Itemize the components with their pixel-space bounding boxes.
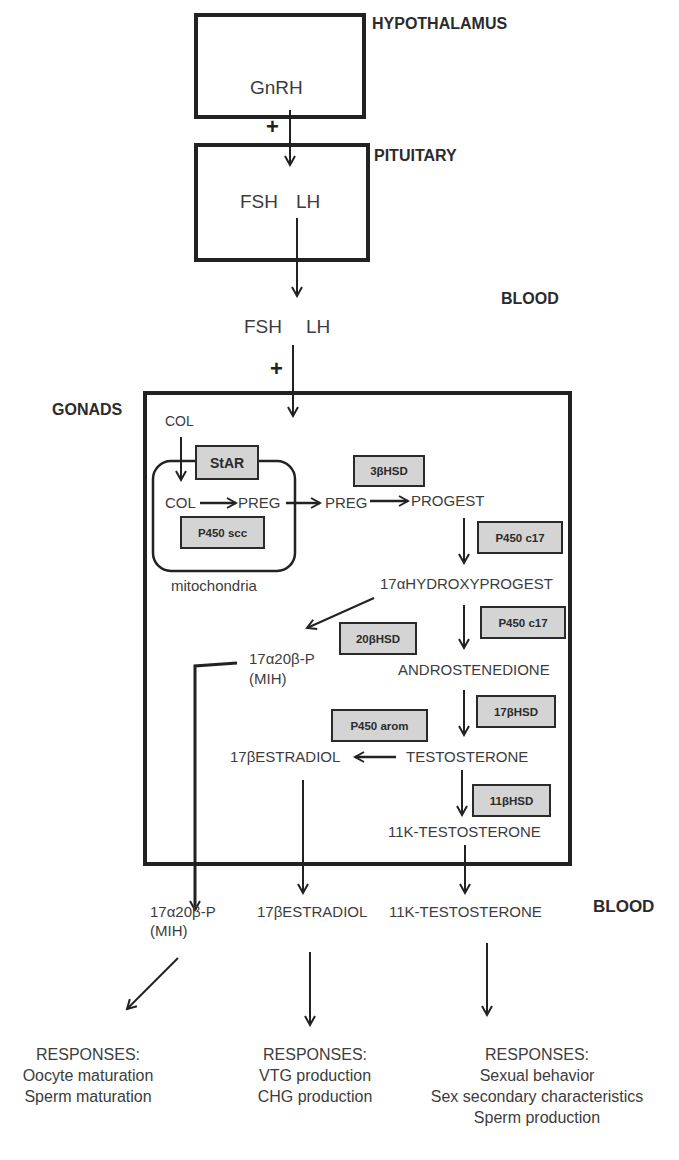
enzyme-p450c17-a: P450 c17 xyxy=(477,521,563,554)
enzyme-11bhsd: 11βHSD xyxy=(472,784,551,817)
enzyme-20bhsd: 20βHSD xyxy=(339,622,417,655)
androstenedione-text: ANDROSTENEDIONE xyxy=(398,662,550,677)
responses-k-testosterone: RESPONSES: Sexual behavior Sex secondary… xyxy=(395,1044,679,1128)
blood-label-top: BLOOD xyxy=(501,291,559,307)
k-testosterone-inner-text: 11K-TESTOSTERONE xyxy=(388,824,541,839)
enzyme-p450arom: P450 arom xyxy=(331,709,428,742)
pituitary-label: PITUITARY xyxy=(374,148,457,164)
k-testosterone-blood-text: 11K-TESTOSTERONE xyxy=(389,904,542,919)
response-item: Sperm maturation xyxy=(0,1086,176,1107)
responses-estradiol: RESPONSES: VTG production CHG production xyxy=(240,1044,390,1107)
mih-blood-line1: 17α20β-P xyxy=(150,904,216,919)
col-outer-text: COL xyxy=(165,414,194,428)
pituitary-fsh-text: FSH xyxy=(240,192,278,211)
response-item: Oocyte maturation xyxy=(0,1065,176,1086)
mih-blood-line2: (MIH) xyxy=(150,923,188,938)
col-inner-text: COL xyxy=(165,495,196,510)
progest-text: PROGEST xyxy=(411,493,484,508)
testosterone-text: TESTOSTERONE xyxy=(406,749,528,764)
blood-lh-text: LH xyxy=(306,317,330,336)
responses-mih: RESPONSES: Oocyte maturation Sperm matur… xyxy=(0,1044,176,1107)
response-item: Sexual behavior xyxy=(395,1065,679,1086)
pituitary-lh-text: LH xyxy=(296,192,320,211)
gonads-label: GONADS xyxy=(52,402,122,418)
enzyme-star: StAR xyxy=(195,445,259,480)
estradiol-inner-text: 17βESTRADIOL xyxy=(230,749,340,764)
mitochondria-label: mitochondria xyxy=(171,578,257,593)
plus-sign-gnrh: + xyxy=(266,116,279,138)
enzyme-17bhsd: 17βHSD xyxy=(476,695,556,728)
enzyme-p450scc: P450 scc xyxy=(180,516,265,549)
plus-sign-gonadotropins: + xyxy=(270,358,283,380)
mih-inner-line2: (MIH) xyxy=(249,671,287,686)
response-item: CHG production xyxy=(240,1086,390,1107)
hypothalamus-label: HYPOTHALAMUS xyxy=(372,16,507,32)
responses-title: RESPONSES: xyxy=(0,1044,176,1065)
response-item: Sperm production xyxy=(395,1107,679,1128)
hypothalamus-box xyxy=(196,15,364,117)
estradiol-blood-text: 17βESTRADIOL xyxy=(257,904,367,919)
hydroxyprogest-text: 17αHYDROXYPROGEST xyxy=(380,576,553,591)
connector-layer xyxy=(0,0,679,1160)
blood-label-bottom: BLOOD xyxy=(593,898,654,915)
hpg-axis-diagram: HYPOTHALAMUS PITUITARY BLOOD GONADS BLOO… xyxy=(0,0,679,1160)
preg-inner-text: PREG xyxy=(238,495,281,510)
preg-outer-text: PREG xyxy=(325,495,368,510)
response-item: Sex secondary characteristics xyxy=(395,1086,679,1107)
responses-title: RESPONSES: xyxy=(395,1044,679,1065)
pituitary-box xyxy=(196,145,368,260)
enzyme-3bhsd: 3βHSD xyxy=(353,455,425,487)
response-item: VTG production xyxy=(240,1065,390,1086)
blood-fsh-text: FSH xyxy=(244,317,282,336)
mih-inner-line1: 17α20β-P xyxy=(249,651,315,666)
enzyme-p450c17-b: P450 c17 xyxy=(480,606,566,639)
responses-title: RESPONSES: xyxy=(240,1044,390,1065)
gnrh-text: GnRH xyxy=(250,78,303,97)
